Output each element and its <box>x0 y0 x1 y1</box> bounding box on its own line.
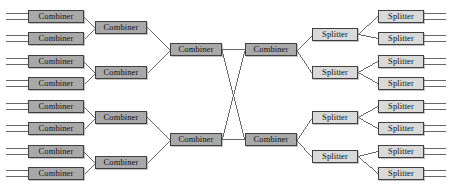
connection-line <box>147 140 170 163</box>
node-label: Combiner <box>39 147 74 156</box>
node-splitter-stage-6-7[interactable]: Splitter <box>378 167 424 180</box>
node-splitter-stage-6-5[interactable]: Splitter <box>378 122 424 135</box>
node-label: Combiner <box>39 57 74 66</box>
connection-line <box>84 17 95 28</box>
connection-line <box>147 50 170 73</box>
connection-line <box>84 107 95 118</box>
connection-line <box>297 140 312 157</box>
connection-line <box>358 73 378 84</box>
connection-line <box>84 73 95 84</box>
node-combiner-stage-2-0[interactable]: Combiner <box>95 21 147 34</box>
node-splitter-stage-6-0[interactable]: Splitter <box>378 10 424 23</box>
node-label: Combiner <box>104 158 139 167</box>
node-label: Splitter <box>388 169 414 178</box>
connection-line <box>84 62 95 73</box>
node-label: Combiner <box>179 45 214 54</box>
connection-line <box>222 50 245 140</box>
node-splitter-stage-5-1[interactable]: Splitter <box>312 66 358 79</box>
connection-line <box>358 157 378 174</box>
node-label: Combiner <box>254 45 289 54</box>
node-combiner-stage-1-1[interactable]: Combiner <box>28 32 84 45</box>
connection-line <box>358 152 378 157</box>
network-diagram-canvas: CombinerCombinerCombinerCombinerCombiner… <box>0 0 460 185</box>
connection-line <box>358 17 378 35</box>
node-combiner-stage-1-0[interactable]: Combiner <box>28 10 84 23</box>
node-combiner-stage-1-6[interactable]: Combiner <box>28 145 84 158</box>
connection-line <box>84 28 95 39</box>
node-label: Splitter <box>388 124 414 133</box>
node-splitter-stage-6-4[interactable]: Splitter <box>378 100 424 113</box>
node-combiner-stage-1-7[interactable]: Combiner <box>28 167 84 180</box>
node-combiner-stage-4-1[interactable]: Combiner <box>245 133 297 146</box>
node-label: Splitter <box>388 147 414 156</box>
node-label: Combiner <box>254 135 289 144</box>
node-label: Combiner <box>39 102 74 111</box>
node-label: Splitter <box>322 152 348 161</box>
node-splitter-stage-6-1[interactable]: Splitter <box>378 32 424 45</box>
node-label: Splitter <box>322 30 348 39</box>
node-splitter-stage-5-3[interactable]: Splitter <box>312 150 358 163</box>
node-label: Combiner <box>39 169 74 178</box>
node-splitter-stage-6-3[interactable]: Splitter <box>378 77 424 90</box>
node-combiner-stage-3-0[interactable]: Combiner <box>170 43 222 56</box>
node-combiner-stage-2-1[interactable]: Combiner <box>95 66 147 79</box>
connection-line <box>358 35 378 39</box>
connection-line <box>147 28 170 50</box>
node-label: Combiner <box>179 135 214 144</box>
connection-line <box>222 50 245 140</box>
connection-line <box>297 35 312 50</box>
connection-line <box>84 152 95 163</box>
node-combiner-stage-4-0[interactable]: Combiner <box>245 43 297 56</box>
node-label: Combiner <box>104 23 139 32</box>
node-combiner-stage-2-2[interactable]: Combiner <box>95 111 147 124</box>
connection-line <box>358 107 378 118</box>
node-combiner-stage-1-5[interactable]: Combiner <box>28 122 84 135</box>
connection-line <box>297 118 312 140</box>
connection-line <box>147 118 170 140</box>
node-label: Splitter <box>388 12 414 21</box>
node-splitter-stage-5-0[interactable]: Splitter <box>312 28 358 41</box>
connection-line <box>297 50 312 73</box>
node-label: Combiner <box>39 12 74 21</box>
node-combiner-stage-1-3[interactable]: Combiner <box>28 77 84 90</box>
connection-line <box>358 62 378 73</box>
connection-line <box>84 118 95 129</box>
node-label: Splitter <box>322 68 348 77</box>
node-combiner-stage-1-2[interactable]: Combiner <box>28 55 84 68</box>
node-label: Splitter <box>388 34 414 43</box>
node-label: Combiner <box>104 68 139 77</box>
node-splitter-stage-6-6[interactable]: Splitter <box>378 145 424 158</box>
node-label: Combiner <box>39 34 74 43</box>
node-combiner-stage-1-4[interactable]: Combiner <box>28 100 84 113</box>
node-label: Splitter <box>388 79 414 88</box>
node-combiner-stage-3-1[interactable]: Combiner <box>170 133 222 146</box>
connection-line <box>84 163 95 174</box>
node-label: Splitter <box>322 113 348 122</box>
node-label: Combiner <box>39 79 74 88</box>
connection-line <box>358 118 378 129</box>
node-splitter-stage-6-2[interactable]: Splitter <box>378 55 424 68</box>
node-splitter-stage-5-2[interactable]: Splitter <box>312 111 358 124</box>
node-label: Splitter <box>388 102 414 111</box>
node-label: Combiner <box>39 124 74 133</box>
node-label: Combiner <box>104 113 139 122</box>
node-combiner-stage-2-3[interactable]: Combiner <box>95 156 147 169</box>
node-label: Splitter <box>388 57 414 66</box>
